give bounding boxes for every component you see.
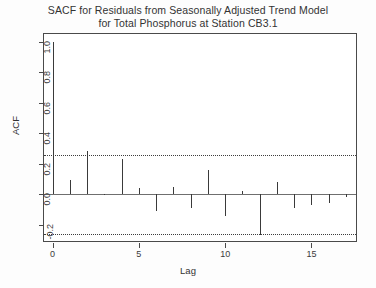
acf-spike [260,194,261,235]
confidence-band-line-lower [44,234,356,235]
acf-spike [53,42,54,195]
acf-spike [277,182,278,194]
chart-title-line-1: SACF for Residuals from Seasonally Adjus… [0,4,376,17]
x-axis-tick [311,243,312,248]
plot-area [44,34,356,241]
y-axis-tick-label: 0.8 [42,71,52,84]
y-axis-tick-label: 1.0 [42,41,52,54]
acf-spike [329,194,330,203]
acf-spike [242,191,243,194]
y-axis-tick-label: 0.4 [42,132,52,145]
acf-spike [294,194,295,208]
acf-spike [346,194,347,197]
y-axis-tick-label: 0.0 [42,193,52,206]
plot-panel: 1.00.80.60.40.20.0-0.2 051015 [43,33,357,242]
chart-title-line-2: for Total Phosphorus at Station CB3.1 [0,17,376,30]
x-axis-tick [53,243,54,248]
x-axis-tick [139,243,140,248]
y-axis-tick [39,225,44,226]
acf-plot-figure: SACF for Residuals from Seasonally Adjus… [0,0,376,288]
zero-baseline [44,194,356,195]
x-axis-title: Lag [0,265,376,276]
x-axis-tick-label: 0 [41,249,65,259]
y-axis-tick-label: -0.2 [45,224,55,240]
y-axis-tick-label: 0.6 [42,102,52,115]
x-axis-tick [225,243,226,248]
y-axis-tick-label: 0.2 [42,163,52,176]
acf-spike [225,194,226,215]
chart-title: SACF for Residuals from Seasonally Adjus… [0,4,376,30]
acf-spike [70,180,71,194]
acf-spike [122,159,123,194]
acf-spike [156,194,157,211]
acf-spike [191,194,192,208]
confidence-band-line-upper [44,155,356,156]
y-axis-title: ACF [10,116,21,135]
acf-spike [87,151,88,194]
x-axis-tick-label: 15 [299,249,323,259]
x-axis-tick-label: 10 [213,249,237,259]
acf-spike [104,194,105,195]
x-axis-tick-label: 5 [127,249,151,259]
acf-spike [173,187,174,195]
acf-spike [139,188,140,194]
acf-spike [311,194,312,205]
acf-spike [208,170,209,194]
